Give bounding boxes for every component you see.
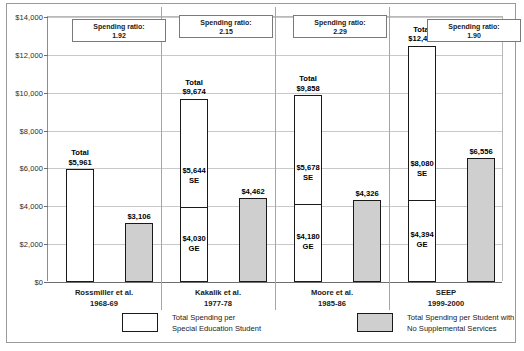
- group-separator: [389, 7, 390, 310]
- bar-segment-divider: [294, 204, 323, 205]
- bar-value-label-total: Total$9,858: [296, 74, 319, 93]
- y-axis-tick-label: $8,000: [19, 126, 43, 135]
- chart-container: $14,000$12,000$10,000$8,000$6,000$4,000$…: [0, 0, 524, 351]
- legend-label: Total Spending perSpecial Education Stud…: [172, 312, 261, 334]
- y-axis-tick: [44, 244, 48, 245]
- bar-no-supplemental-services: [353, 200, 381, 282]
- spending-ratio-annotation: Spending ratio:2.29: [293, 15, 387, 38]
- y-axis-tick-label: $0: [34, 278, 43, 287]
- bar-total-special-education: [180, 99, 208, 282]
- bar-segment-label-ge: $4,030GE: [182, 234, 205, 254]
- y-axis-tick: [44, 206, 48, 207]
- bar-no-supplemental-services: [467, 158, 495, 282]
- spending-ratio-annotation: Spending ratio:2.15: [179, 15, 273, 38]
- x-axis-category-label: Moore et al.1985-86: [311, 287, 353, 309]
- y-axis-tick: [44, 55, 48, 56]
- spending-ratio-annotation: Spending ratio:1.90: [427, 19, 521, 42]
- bar-segment-label-se: $5,644SE: [182, 166, 205, 186]
- bar-value-label-no-supplemental: $3,106: [127, 212, 150, 222]
- bar-no-supplemental-services: [125, 223, 153, 282]
- legend-swatch: [357, 313, 393, 332]
- y-axis-tick: [44, 168, 48, 169]
- x-axis-category-label: Rossmiller et al.1968-69: [75, 287, 133, 309]
- bar-total-special-education: [294, 95, 322, 282]
- y-axis-tick: [44, 17, 48, 18]
- x-axis-category-label: Kakalik et al.1977-78: [195, 287, 241, 309]
- y-axis-tick-label: $10,000: [15, 88, 43, 97]
- bar-segment-label-se: $8,080SE: [410, 159, 433, 179]
- bar-segment-label-ge: $4,180GE: [296, 232, 319, 252]
- y-axis-tick: [44, 282, 48, 283]
- bar-no-supplemental-services: [239, 198, 267, 282]
- legend-swatch: [122, 313, 158, 332]
- y-axis-tick-label: $6,000: [19, 164, 43, 173]
- bar-segment-divider: [180, 207, 209, 208]
- bar-total-special-education: [66, 169, 94, 282]
- legend-label: Total Spending per Student withNo Supple…: [407, 312, 514, 334]
- bar-segment-label-ge: $4,394GE: [410, 230, 433, 250]
- group-separator: [275, 7, 276, 310]
- y-axis-tick: [44, 131, 48, 132]
- spending-ratio-annotation: Spending ratio:1.92: [72, 19, 166, 42]
- bar-segment-divider: [408, 200, 437, 201]
- bar-value-label-no-supplemental: $6,556: [469, 147, 492, 157]
- y-axis-tick: [44, 93, 48, 94]
- y-axis-tick-label: $14,000: [15, 13, 43, 22]
- bar-value-label-total: Total$9,674: [182, 78, 205, 97]
- bar-value-label-total: Total$5,961: [68, 148, 91, 167]
- y-axis-tick-label: $4,000: [19, 202, 43, 211]
- bar-segment-label-se: $5,678SE: [296, 163, 319, 183]
- bar-value-label-no-supplemental: $4,462: [241, 187, 264, 197]
- group-separator: [161, 7, 162, 310]
- y-axis-tick-label: $12,000: [15, 50, 43, 59]
- bar-value-label-no-supplemental: $4,326: [355, 189, 378, 199]
- x-axis-category-label: SEEP1999-2000: [428, 287, 464, 309]
- y-axis-tick-label: $2,000: [19, 240, 43, 249]
